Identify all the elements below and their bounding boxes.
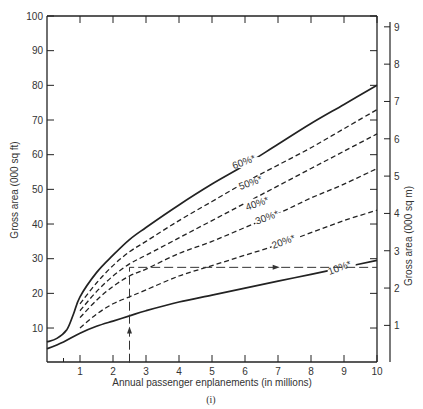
y-tick-label: 60 xyxy=(32,149,44,160)
y-right-tick-label: 2 xyxy=(394,283,400,294)
y-tick-label: 70 xyxy=(32,115,44,126)
y-tick-label: 90 xyxy=(32,45,44,56)
y-right-tick-label: 4 xyxy=(394,208,400,219)
x-tick-label: 10 xyxy=(371,366,383,377)
x-axis: 12345678910 xyxy=(47,16,383,377)
y-axis-left: 102030405060708090100 xyxy=(26,11,377,363)
x-axis-label: Annual passenger enplanements (in millio… xyxy=(112,377,312,388)
y-right-tick-label: 5 xyxy=(394,171,400,182)
series-line-40-percent xyxy=(80,134,377,311)
x-tick-label: 2 xyxy=(110,366,116,377)
series-line-60-percent xyxy=(47,85,377,342)
plot-frame xyxy=(47,16,377,362)
y-axis-right: 123456789 xyxy=(384,22,400,362)
series-label: 40%* xyxy=(244,194,270,213)
series-layer: 60%*50%*40%*30%*20%*10%* xyxy=(47,85,377,349)
series-label: 30%* xyxy=(254,208,280,227)
chart: 102030405060708090100 12345678910 123456… xyxy=(0,0,423,409)
y-right-tick-label: 1 xyxy=(394,320,400,331)
y-right-tick-label: 6 xyxy=(394,134,400,145)
x-tick-label: 7 xyxy=(275,366,281,377)
y-right-tick-label: 3 xyxy=(394,246,400,257)
y-tick-label: 10 xyxy=(32,323,44,334)
series-label: 60%* xyxy=(231,152,257,171)
guide-annotation xyxy=(127,265,377,363)
y-tick-label: 20 xyxy=(32,288,44,299)
y-axis-label-left: Gross area (000 sq ft) xyxy=(9,141,20,238)
x-tick-label: 3 xyxy=(143,366,149,377)
series-label: 20%* xyxy=(270,232,296,251)
y-tick-label: 100 xyxy=(26,11,43,22)
y-tick-label: 50 xyxy=(32,184,44,195)
y-tick-label: 80 xyxy=(32,80,44,91)
y-right-tick-label: 8 xyxy=(394,59,400,70)
x-tick-label: 1 xyxy=(77,366,83,377)
x-tick-label: 4 xyxy=(176,366,182,377)
arrow-right-icon xyxy=(273,265,280,270)
y-tick-label: 30 xyxy=(32,253,44,264)
y-axis-label-right: Gross area (000 sq m) xyxy=(403,186,414,286)
figure-caption: (i) xyxy=(206,394,215,406)
y-right-tick-label: 7 xyxy=(394,96,400,107)
x-tick-label: 6 xyxy=(242,366,248,377)
x-tick-label: 5 xyxy=(209,366,215,377)
y-right-tick-label: 9 xyxy=(394,22,400,33)
x-tick-label: 9 xyxy=(341,366,347,377)
y-tick-label: 40 xyxy=(32,219,44,230)
x-tick-label: 8 xyxy=(308,366,314,377)
series-label: 50%* xyxy=(237,173,263,192)
arrow-up-icon xyxy=(127,326,132,333)
